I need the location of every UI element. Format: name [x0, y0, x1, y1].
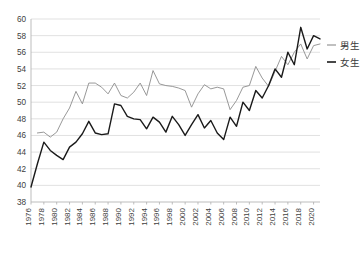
x-tick-label: 1986 — [88, 207, 97, 225]
x-tick-label: 2004 — [204, 207, 213, 225]
line-chart: 384042444648505254565860 197619781980198… — [0, 0, 360, 254]
x-tick-label: 2018 — [294, 207, 303, 225]
y-tick-label: 60 — [17, 15, 27, 24]
y-tick-label: 50 — [17, 98, 27, 107]
y-tick-label: 54 — [17, 65, 27, 74]
legend-label-0: 男生 — [340, 40, 360, 51]
x-tick-label: 2002 — [191, 207, 200, 225]
x-tick-label: 2014 — [268, 207, 277, 225]
x-tick-label: 1982 — [63, 207, 72, 225]
series-line-1 — [31, 27, 320, 187]
y-tick-label: 38 — [17, 198, 27, 207]
y-tick-label: 46 — [17, 131, 27, 140]
x-tick-label: 1976 — [24, 207, 33, 225]
x-tick-label: 2020 — [307, 207, 316, 225]
x-tick-label: 1980 — [50, 207, 59, 225]
x-tick-label: 2000 — [178, 207, 187, 225]
x-tick-label: 2008 — [230, 207, 239, 225]
y-tick-label: 58 — [17, 32, 27, 41]
y-tick-label: 40 — [17, 181, 27, 190]
chart-legend: 男生女生 — [327, 40, 360, 68]
y-tick-label: 42 — [17, 165, 27, 174]
x-tick-label: 1988 — [101, 207, 110, 225]
axes-group — [31, 19, 320, 202]
chart-canvas: 384042444648505254565860 197619781980198… — [0, 0, 360, 254]
series-line-0 — [37, 44, 320, 137]
x-tick-labels-group: 1976197819801982198419861988199019921994… — [24, 202, 316, 226]
y-tick-label: 56 — [17, 48, 27, 57]
y-tick-labels-group: 384042444648505254565860 — [17, 15, 27, 207]
legend-label-1: 女生 — [340, 57, 360, 68]
x-tick-label: 1996 — [152, 207, 161, 225]
x-tick-label: 1992 — [127, 207, 136, 225]
x-tick-label: 2006 — [217, 207, 226, 225]
x-tick-label: 1998 — [165, 207, 174, 225]
y-tick-label: 52 — [17, 82, 27, 91]
x-tick-label: 2012 — [255, 207, 264, 225]
series-group — [31, 27, 320, 187]
x-tick-label: 2010 — [242, 207, 251, 225]
x-tick-label: 1978 — [37, 207, 46, 225]
y-tick-label: 48 — [17, 115, 27, 124]
x-tick-label: 1984 — [75, 207, 84, 225]
x-tick-label: 1990 — [114, 207, 123, 225]
y-tick-label: 44 — [17, 148, 27, 157]
gridlines-group — [31, 19, 320, 185]
x-tick-label: 2016 — [281, 207, 290, 225]
x-tick-label: 1994 — [140, 207, 149, 225]
